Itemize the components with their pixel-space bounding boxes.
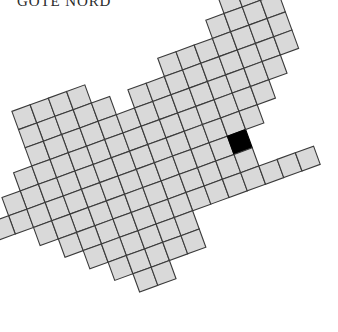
grid-map-svg (0, 0, 338, 332)
grid-cell-layer (0, 0, 320, 292)
figure-canvas: GOTE NORD (0, 0, 338, 332)
grid-map (0, 0, 338, 332)
